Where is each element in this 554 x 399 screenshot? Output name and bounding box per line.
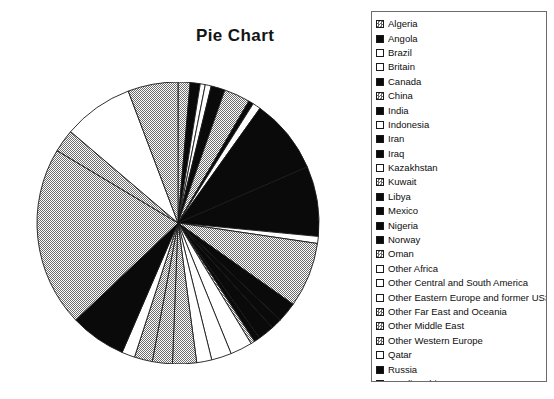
legend-swatch-icon — [376, 193, 384, 201]
legend-swatch-icon — [376, 380, 384, 382]
legend-item-label: Qatar — [388, 350, 412, 360]
legend-swatch-icon — [376, 121, 384, 129]
legend-item[interactable]: Other Middle East — [372, 319, 546, 333]
legend-item-label: Angola — [388, 34, 418, 44]
legend-swatch-icon — [376, 351, 384, 359]
legend-item[interactable]: Other Western Europe — [372, 334, 546, 348]
legend-item-label: Oman — [388, 249, 414, 259]
legend-swatch-icon — [376, 337, 384, 345]
legend-swatch-icon — [376, 207, 384, 215]
legend-item[interactable]: Angola — [372, 31, 546, 45]
legend-swatch-icon — [376, 250, 384, 258]
legend-item[interactable]: Iran — [372, 132, 546, 146]
legend-item-label: Saudi Arabia — [388, 379, 442, 382]
legend-item-label: Other Eastern Europe and former USSR — [388, 293, 547, 303]
legend-item[interactable]: Other Far East and Oceania — [372, 305, 546, 319]
legend-item[interactable]: Algeria — [372, 17, 546, 31]
legend-swatch-icon — [376, 308, 384, 316]
legend-swatch-icon — [376, 178, 384, 186]
legend-item[interactable]: Britain — [372, 60, 546, 74]
legend-item-label: Kazakhstan — [388, 163, 438, 173]
legend-item-label: India — [388, 106, 409, 116]
legend-swatch-icon — [376, 236, 384, 244]
legend-item-label: Norway — [388, 235, 420, 245]
legend-item[interactable]: Oman — [372, 247, 546, 261]
legend-item[interactable]: Libya — [372, 190, 546, 204]
legend-swatch-icon — [376, 164, 384, 172]
legend-item-label: Indonesia — [388, 120, 429, 130]
legend-item-label: Brazil — [388, 48, 412, 58]
legend-item-label: Iraq — [388, 149, 404, 159]
page-title: Pie Chart — [196, 26, 274, 46]
legend-item[interactable]: Russia — [372, 362, 546, 376]
legend-item[interactable]: Saudi Arabia — [372, 377, 546, 382]
pie-chart-svg — [36, 82, 320, 364]
legend-item-label: Mexico — [388, 206, 418, 216]
legend-item[interactable]: Mexico — [372, 204, 546, 218]
legend-item-label: Other Central and South America — [388, 278, 528, 288]
legend-item[interactable]: Nigeria — [372, 218, 546, 232]
legend-item[interactable]: Kazakhstan — [372, 161, 546, 175]
legend-item[interactable]: Brazil — [372, 46, 546, 60]
legend-swatch-icon — [376, 35, 384, 43]
legend-swatch-icon — [376, 279, 384, 287]
legend-item-label: Iran — [388, 134, 404, 144]
legend-item-label: Algeria — [388, 19, 418, 29]
legend-swatch-icon — [376, 322, 384, 330]
legend-item[interactable]: India — [372, 103, 546, 117]
legend-swatch-icon — [376, 49, 384, 57]
legend-item-label: Other Middle East — [388, 321, 464, 331]
legend: AlgeriaAngolaBrazilBritainCanadaChinaInd… — [371, 11, 547, 382]
legend-item-label: Other Africa — [388, 264, 438, 274]
legend-swatch-icon — [376, 92, 384, 100]
legend-item-label: Libya — [388, 192, 411, 202]
legend-item-label: Russia — [388, 365, 417, 375]
legend-item-label: Britain — [388, 62, 415, 72]
legend-item[interactable]: China — [372, 89, 546, 103]
legend-item-label: Kuwait — [388, 177, 417, 187]
legend-item-label: China — [388, 91, 413, 101]
legend-item[interactable]: Norway — [372, 233, 546, 247]
legend-swatch-icon — [376, 222, 384, 230]
legend-swatch-icon — [376, 366, 384, 374]
legend-item-label: Nigeria — [388, 221, 418, 231]
legend-swatch-icon — [376, 265, 384, 273]
legend-item[interactable]: Qatar — [372, 348, 546, 362]
pie-slices — [37, 82, 319, 364]
pie-chart — [36, 82, 320, 364]
legend-item[interactable]: Canada — [372, 75, 546, 89]
legend-item[interactable]: Other Central and South America — [372, 276, 546, 290]
legend-swatch-icon — [376, 135, 384, 143]
legend-item[interactable]: Other Eastern Europe and former USSR — [372, 290, 546, 304]
legend-item-label: Canada — [388, 77, 421, 87]
legend-swatch-icon — [376, 294, 384, 302]
legend-item[interactable]: Kuwait — [372, 175, 546, 189]
legend-swatch-icon — [376, 63, 384, 71]
legend-swatch-icon — [376, 107, 384, 115]
legend-item-label: Other Far East and Oceania — [388, 307, 507, 317]
legend-item[interactable]: Other Africa — [372, 262, 546, 276]
legend-swatch-icon — [376, 150, 384, 158]
legend-item[interactable]: Indonesia — [372, 118, 546, 132]
legend-swatch-icon — [376, 78, 384, 86]
legend-item[interactable]: Iraq — [372, 147, 546, 161]
legend-swatch-icon — [376, 20, 384, 28]
legend-item-label: Other Western Europe — [388, 336, 483, 346]
